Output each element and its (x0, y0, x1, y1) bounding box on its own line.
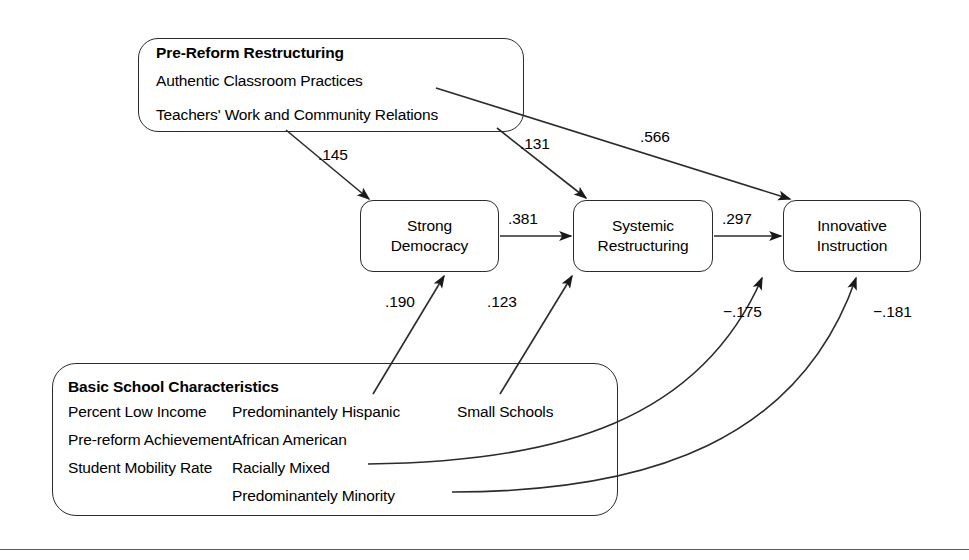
coefficient-label-prereform-to-systemic: .131 (520, 135, 550, 153)
coefficient-label-systemic-to-innovative: .297 (722, 210, 752, 228)
node-strong-democracy: Strong Democracy (360, 200, 499, 272)
node-systemic-restructuring: Systemic Restructuring (573, 200, 713, 272)
group-item-racially-mixed: Racially Mixed (232, 459, 330, 477)
node-innovative-instruction-line1: Innovative (817, 216, 887, 236)
node-strong-democracy-line2: Democracy (391, 236, 468, 256)
group-title-basic-school-characteristics: Basic School Characteristics (68, 378, 279, 396)
coefficient-label-democracy-to-systemic: .381 (508, 210, 538, 228)
group-item-authentic-classroom-practices: Authentic Classroom Practices (156, 72, 363, 90)
node-systemic-restructuring-line2: Restructuring (598, 236, 689, 256)
figure-bottom-rule (0, 549, 969, 550)
node-systemic-restructuring-line1: Systemic (612, 216, 674, 236)
node-strong-democracy-line1: Strong (407, 216, 452, 236)
group-item-african-american: African American (232, 431, 347, 449)
path-diagram-figure: Pre-Reform Restructuring Authentic Class… (0, 0, 969, 560)
node-innovative-instruction-line2: Instruction (817, 236, 887, 256)
coefficient-label-prereform-to-democracy: .145 (318, 146, 348, 164)
group-item-predominantely-minority: Predominantely Minority (232, 487, 395, 505)
group-item-percent-low-income: Percent Low Income (68, 403, 207, 421)
group-item-pre-reform-achievement: Pre-reform Achievement (68, 431, 232, 449)
coefficient-label-minority-to-innovative: −.181 (873, 303, 912, 321)
coefficient-label-hispanic-to-democracy: .190 (385, 293, 415, 311)
coefficient-label-prereform-to-innovative: .566 (640, 128, 670, 146)
group-item-teachers-work-and-community-relations: Teachers' Work and Community Relations (156, 106, 438, 124)
group-item-predominantely-hispanic: Predominantely Hispanic (232, 403, 400, 421)
group-item-student-mobility-rate: Student Mobility Rate (68, 459, 212, 477)
group-title-pre-reform-restructuring: Pre-Reform Restructuring (156, 44, 344, 62)
group-item-small-schools: Small Schools (457, 403, 553, 421)
coefficient-label-smallschools-to-systemic: .123 (487, 293, 517, 311)
coefficient-label-raciallymixed-to-innovative: −.175 (723, 303, 762, 321)
node-innovative-instruction: Innovative Instruction (783, 200, 921, 272)
path-prereform-to-democracy (286, 130, 369, 199)
